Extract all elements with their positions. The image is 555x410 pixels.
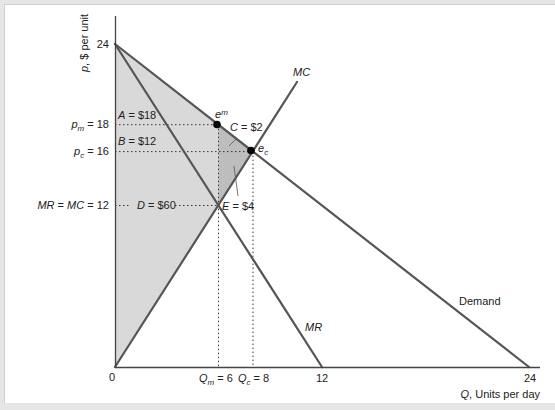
y-tick-24: 24 <box>97 38 109 50</box>
area-e-label: E = $4 <box>222 200 254 212</box>
x-axis-title: Q, Units per day <box>461 388 541 400</box>
x-tick-qc: Qc = 8 <box>238 372 269 387</box>
y-tick-mr-mc: MR = MC = 12 <box>37 199 109 211</box>
x-tick-0: 0 <box>109 371 115 383</box>
area-b-label: B = $12 <box>118 135 156 147</box>
mr-curve-label: MR <box>305 321 322 333</box>
em-point <box>213 121 221 129</box>
area-d-label: D = $60 <box>137 199 176 211</box>
area-c-label: C = $2 <box>230 121 263 133</box>
ec-label: ec <box>258 142 268 157</box>
y-axis-title: p, $ per unit <box>78 14 90 73</box>
ec-point <box>247 147 255 155</box>
monopoly-deadweight-loss-chart: p, $ per unit 24 pm = 18 pc = 16 MR = MC… <box>0 0 555 410</box>
x-tick-qm: Qm = 6 <box>199 372 233 387</box>
y-tick-pc: pc = 16 <box>73 145 109 160</box>
x-tick-24: 24 <box>524 372 536 384</box>
x-tick-12: 12 <box>316 372 328 384</box>
y-tick-pm: pm = 18 <box>70 118 109 133</box>
em-label: em <box>215 108 228 120</box>
mc-curve-label: MC <box>293 66 310 78</box>
area-a-label: A = $18 <box>117 109 156 121</box>
demand-curve-label: Demand <box>459 295 501 307</box>
